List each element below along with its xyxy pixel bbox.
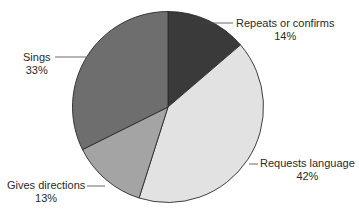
label-repeats: Repeats or confirms 14% <box>236 17 334 43</box>
label-directions: Gives directions 13% <box>7 179 85 205</box>
label-repeats-pct: 14% <box>236 30 334 43</box>
label-sings: Sings 33% <box>23 51 51 77</box>
label-sings-name: Sings <box>23 51 51 64</box>
label-requests-name: Requests language <box>260 157 355 170</box>
label-directions-pct: 13% <box>7 192 85 205</box>
label-directions-name: Gives directions <box>7 179 85 192</box>
label-sings-pct: 33% <box>23 64 51 77</box>
pie-slices <box>72 11 263 202</box>
label-requests: Requests language 42% <box>260 157 355 183</box>
label-repeats-name: Repeats or confirms <box>236 17 334 30</box>
label-requests-pct: 42% <box>260 170 355 183</box>
